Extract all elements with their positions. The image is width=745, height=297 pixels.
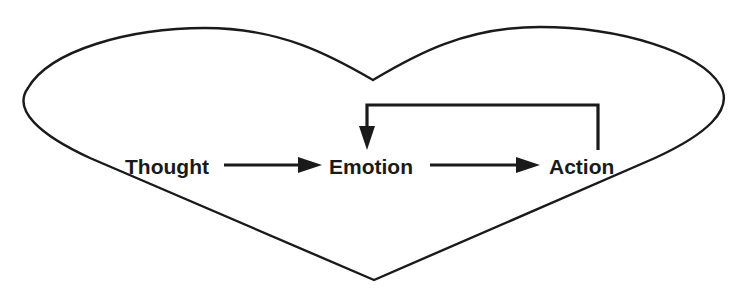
arrow-action-to-emotion-feedback bbox=[359, 105, 598, 150]
heart-diagram: Thought Emotion Action bbox=[0, 0, 745, 297]
arrow-emotion-to-action bbox=[430, 157, 540, 173]
arrow-thought-to-emotion bbox=[224, 157, 322, 173]
heart-outline bbox=[23, 27, 723, 280]
node-emotion: Emotion bbox=[329, 155, 413, 178]
node-action: Action bbox=[549, 155, 614, 178]
node-thought: Thought bbox=[125, 155, 209, 178]
